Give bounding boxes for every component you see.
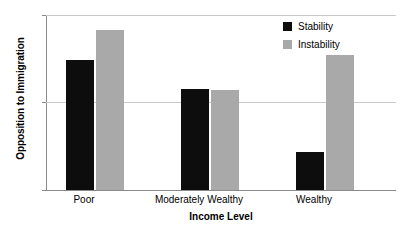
legend-swatch-stability-icon (283, 22, 292, 31)
legend-label-stability: Stability (298, 21, 333, 32)
x-axis-title: Income Level (46, 211, 396, 222)
bar-wealthy-instability (326, 55, 354, 190)
bar-moderately-wealthy-stability (181, 89, 209, 190)
x-category-label-poor: Poor (34, 194, 134, 205)
legend: Stability Instability (283, 19, 340, 55)
x-category-label-wealthy: Wealthy (264, 194, 364, 205)
x-axis-line (46, 190, 396, 191)
x-category-label-moderately-wealthy: Moderately Wealthy (149, 194, 249, 205)
legend-item-instability: Instability (283, 37, 340, 52)
bar-poor-stability (66, 60, 94, 190)
legend-item-stability: Stability (283, 19, 340, 34)
plot-area (46, 15, 396, 190)
bar-poor-instability (96, 30, 124, 190)
bar-wealthy-stability (296, 152, 324, 190)
legend-swatch-instability-icon (283, 40, 292, 49)
y-axis-title: Opposition to Immigration (15, 9, 26, 189)
bar-chart-figure: Opposition to Immigration 2 3 4 Poor Mod… (0, 0, 402, 236)
bar-moderately-wealthy-instability (211, 90, 239, 190)
gridline-4 (46, 15, 396, 16)
legend-label-instability: Instability (298, 39, 340, 50)
